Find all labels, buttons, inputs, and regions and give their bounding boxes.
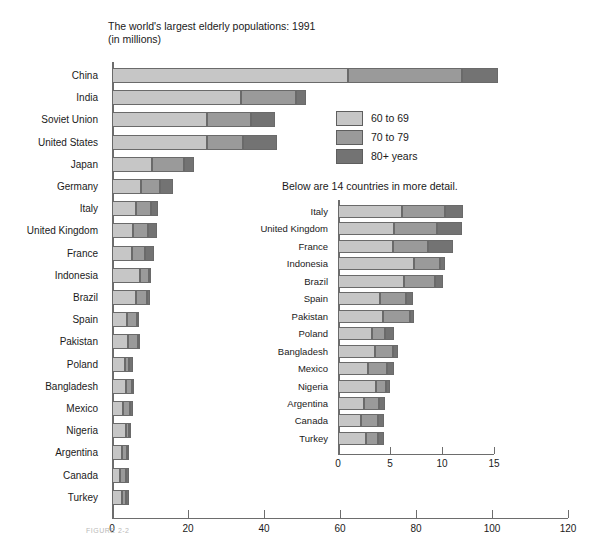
- bar-segment: [393, 240, 428, 253]
- category-label: Brazil: [0, 275, 334, 288]
- bar-row: [338, 327, 494, 340]
- bar-segment: [428, 240, 453, 253]
- bar-segment: [338, 327, 372, 340]
- bar-segment: [366, 432, 377, 445]
- x-axis-tick-label: 0: [318, 458, 358, 469]
- bar-segment: [445, 205, 463, 218]
- bar-segment: [338, 345, 375, 358]
- category-label: Indonesia: [0, 257, 334, 270]
- x-axis-tick: [416, 510, 417, 518]
- x-axis-tick: [568, 510, 569, 518]
- bar-segment: [364, 397, 379, 410]
- bar-row: [338, 362, 494, 375]
- bar-segment: [338, 257, 414, 270]
- category-label: Pakistan: [0, 310, 334, 323]
- bar-segment: [440, 257, 445, 270]
- bar-segment: [379, 397, 385, 410]
- bar-segment: [378, 432, 384, 445]
- category-label: Argentina: [0, 397, 334, 410]
- bar-segment: [338, 292, 380, 305]
- x-axis-tick-label: 5: [370, 458, 410, 469]
- bar-segment: [338, 310, 383, 323]
- bar-segment: [402, 205, 445, 218]
- figure-caption: FIGURE 2-2: [86, 527, 130, 534]
- x-axis-tick: [188, 510, 189, 518]
- x-axis-tick-label: 100: [472, 523, 512, 534]
- bar-segment: [338, 432, 366, 445]
- x-axis-line: [112, 518, 568, 519]
- x-axis-tick-label: 15: [474, 458, 514, 469]
- x-axis-tick-label: 120: [548, 523, 588, 534]
- bar-segment: [404, 275, 435, 288]
- bar-row: [338, 275, 494, 288]
- bar-row: [338, 240, 494, 253]
- bar-row: [338, 257, 494, 270]
- x-axis-tick: [264, 510, 265, 518]
- bar-segment: [338, 240, 393, 253]
- x-axis-tick-label: 10: [422, 458, 462, 469]
- inset-bar-chart: 051015ItalyUnited KingdomFranceIndonesia…: [0, 0, 598, 500]
- bar-segment: [372, 327, 384, 340]
- x-axis-tick-label: 60: [320, 523, 360, 534]
- category-label: Nigeria: [0, 380, 334, 393]
- x-axis-tick-label: 80: [396, 523, 436, 534]
- bar-segment: [375, 345, 393, 358]
- chart-page: The world's largest elderly populations:…: [0, 0, 598, 540]
- bar-segment: [338, 362, 368, 375]
- bar-segment: [368, 362, 387, 375]
- bar-segment: [338, 222, 394, 235]
- bar-segment: [338, 380, 376, 393]
- x-axis-line: [338, 454, 494, 455]
- bar-segment: [338, 397, 364, 410]
- bar-row: [338, 205, 494, 218]
- x-axis-tick: [390, 447, 391, 454]
- category-label: Mexico: [0, 362, 334, 375]
- bar-segment: [385, 327, 394, 340]
- bar-segment: [435, 275, 443, 288]
- bar-segment: [414, 257, 440, 270]
- bar-row: [338, 397, 494, 410]
- category-label: United Kingdom: [0, 222, 334, 235]
- bar-segment: [338, 414, 361, 427]
- bar-segment: [393, 345, 398, 358]
- category-label: Poland: [0, 327, 334, 340]
- x-axis-tick: [442, 447, 443, 454]
- category-label: Italy: [0, 205, 334, 218]
- bar-row: [338, 222, 494, 235]
- x-axis-tick: [494, 447, 495, 454]
- category-label: France: [0, 240, 334, 253]
- bar-row: [338, 310, 494, 323]
- bar-segment: [406, 292, 413, 305]
- bar-segment: [376, 380, 385, 393]
- bar-segment: [361, 414, 378, 427]
- x-axis-tick: [340, 510, 341, 518]
- x-axis-tick: [112, 510, 113, 518]
- bar-segment: [394, 222, 437, 235]
- bar-segment: [338, 275, 404, 288]
- bar-segment: [383, 310, 410, 323]
- category-label: Canada: [0, 414, 334, 427]
- bar-segment: [338, 205, 402, 218]
- x-axis-tick-label: 20: [168, 523, 208, 534]
- bar-row: [338, 432, 494, 445]
- category-label: Turkey: [0, 432, 334, 445]
- bar-segment: [386, 380, 390, 393]
- bar-segment: [387, 362, 394, 375]
- x-axis-tick: [338, 447, 339, 454]
- category-label: Spain: [0, 292, 334, 305]
- bar-segment: [437, 222, 462, 235]
- x-axis-tick: [492, 510, 493, 518]
- bar-row: [338, 414, 494, 427]
- x-axis-tick-label: 40: [244, 523, 284, 534]
- category-label: Bangladesh: [0, 345, 334, 358]
- bar-segment: [410, 310, 414, 323]
- bar-segment: [378, 414, 384, 427]
- bar-row: [338, 292, 494, 305]
- bar-row: [338, 380, 494, 393]
- bar-segment: [380, 292, 406, 305]
- bar-row: [338, 345, 494, 358]
